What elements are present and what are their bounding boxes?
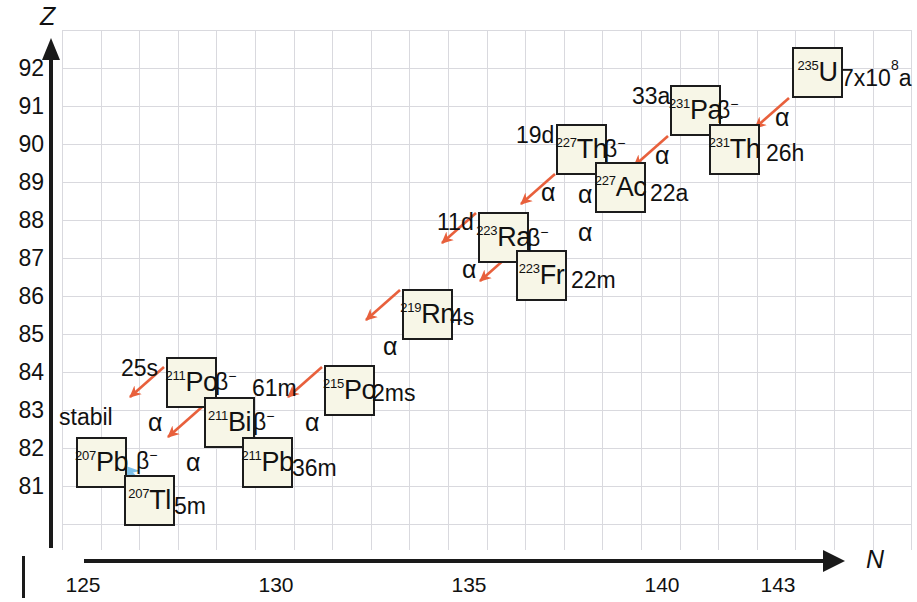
grid-line-horizontal <box>62 486 912 487</box>
halflife-pa231: 33a <box>632 83 670 110</box>
mass-number-po211: 211 <box>166 369 186 382</box>
grid-line-vertical <box>834 30 835 550</box>
grid-line-horizontal <box>62 30 912 31</box>
nuclide-label-th231: 231Th <box>711 126 758 173</box>
halflife-ac227: 22a <box>650 180 688 207</box>
alpha-label-rn219: α <box>383 332 397 361</box>
nuclide-label-ac227: 227Ac <box>597 164 644 211</box>
halflife-rn219: 4s <box>450 304 474 331</box>
beta-label-ac227: β− <box>604 135 625 163</box>
grid-line-horizontal <box>62 182 912 183</box>
nuclide-label-pb207: 207Pb <box>78 439 125 486</box>
grid-line-vertical <box>757 30 758 550</box>
symbol-pb211: Pb <box>261 449 293 476</box>
nuclide-box-pb211[interactable]: 211Pb <box>242 437 293 488</box>
beta-label-po211: β− <box>215 368 236 396</box>
halflife-u235: 7x108a <box>841 64 911 92</box>
nuclide-box-tl207[interactable]: 207Tl <box>124 475 175 526</box>
alpha-label-po215: α <box>305 408 319 437</box>
stability-label-pb207: stabil <box>59 404 113 431</box>
mass-number-ra223: 223 <box>476 224 497 237</box>
y-tick-86: 86 <box>0 283 44 310</box>
decay-chain-diagram: Z N 92 91 90 89 88 87 86 85 84 83 82 81 … <box>0 0 917 602</box>
nuclide-box-rn219[interactable]: 219Rn <box>402 289 453 340</box>
alpha-label-po211: α <box>148 408 162 437</box>
nuclide-label-pb211: 211Pb <box>244 439 291 486</box>
alpha-label-ra223: α <box>462 255 476 284</box>
grid-line-vertical <box>371 30 372 550</box>
alpha-label-fr223: α <box>578 218 592 247</box>
nuclide-label-tl207: 207Tl <box>126 477 173 524</box>
y-tick-81: 81 <box>0 473 44 500</box>
x-axis-line <box>84 559 826 563</box>
y-tick-82: 82 <box>0 435 44 462</box>
mass-number-pb211: 211 <box>242 449 262 462</box>
grid-line-vertical <box>911 30 912 550</box>
nuclide-box-po215[interactable]: 215Po <box>324 365 375 416</box>
beta-label-th231: β− <box>717 96 738 124</box>
halflife-pb211: 36m <box>292 455 337 482</box>
x-tick-135: 135 <box>434 573 504 597</box>
grid-line-vertical <box>216 30 217 550</box>
nuclide-box-fr223[interactable]: 223Fr <box>516 250 567 301</box>
mass-number-ac227: 227 <box>595 174 616 187</box>
halflife-u235-exponent: 8 <box>891 57 899 73</box>
symbol-u235: U <box>818 59 837 86</box>
halflife-u235-unit: a <box>899 65 912 91</box>
grid-line-horizontal <box>62 410 912 411</box>
halflife-th227: 19d <box>516 122 554 149</box>
y-tick-84: 84 <box>0 359 44 386</box>
x-axis-arrowhead <box>823 550 845 572</box>
mass-number-po215: 215 <box>323 377 344 390</box>
mass-number-bi211: 211 <box>208 409 228 422</box>
beta-label-pb207: β− <box>136 447 157 475</box>
halflife-bi211: 61m <box>252 375 297 402</box>
x-axis-title: N <box>866 545 884 574</box>
y-tick-89: 89 <box>0 169 44 196</box>
halflife-u235-mantissa: 7x10 <box>841 65 891 91</box>
nuclide-box-th231[interactable]: 231Th <box>709 124 760 175</box>
symbol-fr223: Fr <box>540 262 564 289</box>
alpha-label-u235: α <box>775 103 789 132</box>
y-tick-90: 90 <box>0 131 44 158</box>
grid-line-vertical <box>795 30 796 550</box>
mass-number-pa231: 231 <box>669 97 690 110</box>
y-axis-title: Z <box>40 2 55 31</box>
alpha-label-th227: α <box>541 178 555 207</box>
grid-line-horizontal <box>62 68 912 69</box>
symbol-th231: Th <box>730 136 761 163</box>
halflife-ra223: 11d <box>437 209 474 236</box>
mass-number-th227: 227 <box>556 136 577 149</box>
nuclide-label-po215: 215Po <box>326 367 373 414</box>
beta-label-bi211: β− <box>253 408 274 436</box>
symbol-po211: Po <box>185 369 217 396</box>
nuclide-label-rn219: 219Rn <box>404 291 451 338</box>
mass-number-th231: 231 <box>709 136 730 149</box>
nuclide-box-ac227[interactable]: 227Ac <box>595 162 646 213</box>
y-tick-91: 91 <box>0 93 44 120</box>
y-tick-87: 87 <box>0 245 44 272</box>
symbol-ac227: Ac <box>616 174 647 201</box>
grid-line-vertical <box>873 30 874 550</box>
halflife-po211: 25s <box>121 355 158 382</box>
y-tick-92: 92 <box>0 55 44 82</box>
symbol-bi211: Bi <box>228 409 251 436</box>
mass-number-fr223: 223 <box>519 262 540 275</box>
y-axis-arrowhead <box>42 38 60 60</box>
nuclide-box-u235[interactable]: 235U <box>792 47 843 98</box>
y-axis-line <box>49 57 53 548</box>
x-tick-125: 125 <box>48 573 118 597</box>
alpha-label-pa231: α <box>655 141 669 170</box>
x-tick-140: 140 <box>627 573 697 597</box>
symbol-th227: Th <box>577 136 608 163</box>
grid-line-vertical <box>487 30 488 550</box>
grid-line-vertical <box>62 30 63 550</box>
grid-line-horizontal <box>62 334 912 335</box>
y-tick-88: 88 <box>0 207 44 234</box>
beta-label-fr223: β− <box>527 224 548 252</box>
x-tick-130: 130 <box>241 573 311 597</box>
nuclide-box-pb207[interactable]: 207Pb <box>76 437 127 488</box>
symbol-ra223: Ra <box>497 224 531 251</box>
halflife-po215: 2ms <box>372 380 415 407</box>
symbol-tl207: Tl <box>149 487 171 514</box>
